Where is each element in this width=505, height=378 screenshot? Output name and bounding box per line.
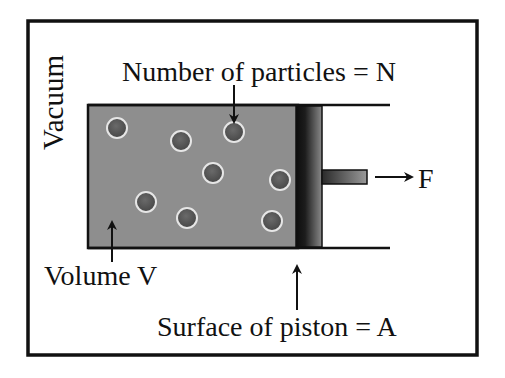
particle	[136, 192, 156, 212]
piston-diagram: Vacuum Number of particles = N F Volume …	[0, 0, 505, 378]
particle	[177, 208, 197, 228]
piston-rod	[322, 170, 367, 184]
particle	[270, 170, 290, 190]
piston-surface-label: Surface of piston = A	[157, 311, 398, 342]
piston	[296, 106, 322, 247]
particle	[262, 211, 282, 231]
particle	[171, 131, 191, 151]
particles-label: Number of particles = N	[122, 56, 396, 87]
force-label: F	[418, 163, 434, 194]
particle	[224, 122, 244, 142]
particle	[107, 118, 127, 138]
particle	[203, 163, 223, 183]
vacuum-label: Vacuum	[37, 55, 69, 150]
volume-label: Volume V	[44, 260, 157, 291]
